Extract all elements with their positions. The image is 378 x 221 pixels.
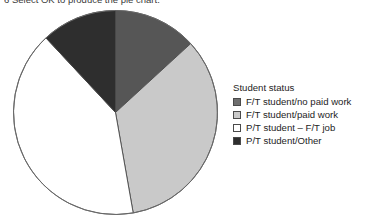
instruction-line: 6 Select OK to produce the pie chart. — [4, 0, 244, 6]
legend-item: F/T student/no paid work — [233, 95, 375, 108]
pie-slice-group — [14, 11, 218, 215]
legend-item: P/T student – F/T job — [233, 121, 375, 134]
pie-chart — [13, 10, 218, 215]
legend-swatch-ft-no-paid-work — [233, 98, 241, 106]
legend-item-label: P/T student – F/T job — [246, 121, 335, 134]
legend-item: P/T student/Other — [233, 134, 375, 147]
pie-chart-svg — [13, 10, 218, 215]
legend-item-label: F/T student/no paid work — [246, 95, 351, 108]
legend-list: F/T student/no paid workF/T student/paid… — [233, 95, 375, 147]
legend-swatch-pt-ft-job — [233, 124, 241, 132]
legend: Student status F/T student/no paid workF… — [233, 81, 375, 147]
legend-item: F/T student/paid work — [233, 108, 375, 121]
legend-swatch-ft-paid-work — [233, 111, 241, 119]
legend-item-label: P/T student/Other — [246, 134, 322, 147]
pie-chart-screenshot: 6 Select OK to produce the pie chart. St… — [0, 0, 378, 221]
legend-swatch-pt-other — [233, 137, 241, 145]
legend-item-label: F/T student/paid work — [246, 108, 338, 121]
legend-title: Student status — [233, 81, 375, 94]
